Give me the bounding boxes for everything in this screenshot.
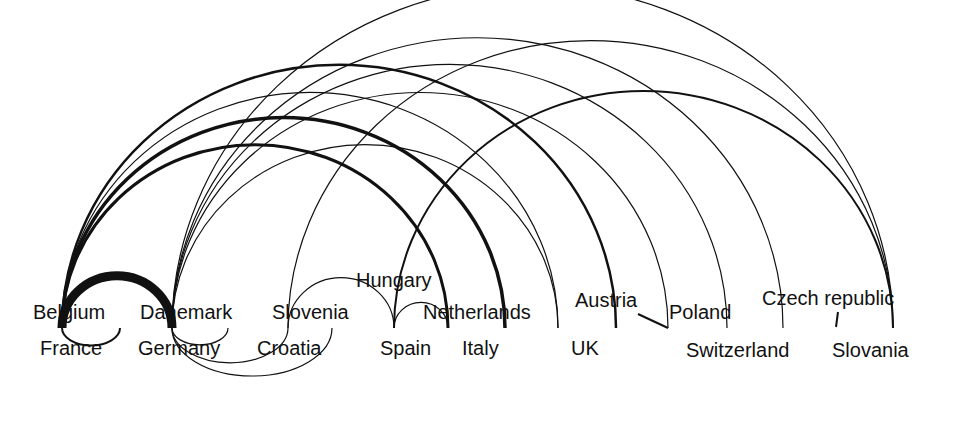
node-poland: Poland: [669, 302, 731, 322]
node-germany: Germany: [138, 338, 220, 358]
node-austria: Austria: [575, 290, 637, 310]
node-netherlands: Netherlands: [423, 302, 531, 322]
node-danemark: Danemark: [140, 302, 232, 322]
short-link: [836, 312, 838, 327]
short-link: [638, 314, 668, 328]
upper-arc: [172, 0, 893, 328]
upper-arc: [62, 92, 558, 328]
upper-arc: [172, 38, 783, 328]
upper-arc: [172, 64, 727, 328]
upper-arc: [62, 118, 505, 328]
node-belgium: Belgium: [33, 302, 105, 322]
upper-arc: [62, 65, 616, 328]
upper-arc: [62, 145, 448, 328]
node-italy: Italy: [462, 338, 499, 358]
node-spain: Spain: [380, 338, 431, 358]
node-france: France: [40, 338, 102, 358]
node-hungary: Hungary: [356, 270, 432, 290]
node-croatia: Croatia: [257, 338, 321, 358]
node-czech-republic: Czech republic: [762, 288, 894, 308]
node-slovenia: Slovenia: [272, 302, 349, 322]
node-switzerland: Switzerland: [686, 340, 789, 360]
node-uk: UK: [571, 338, 599, 358]
upper-arcs: [62, 0, 893, 328]
node-slovania: Slovania: [832, 340, 909, 360]
